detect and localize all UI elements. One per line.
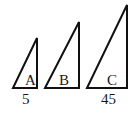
triangle-c-base-label: 45 [101,91,116,107]
triangle-a-label: A [25,72,36,88]
triangle-c-label: C [107,72,117,88]
similar-triangles-diagram: A B C 5 45 [0,0,136,114]
triangle-a-base-label: 5 [22,91,30,107]
triangle-b-label: B [59,72,69,88]
